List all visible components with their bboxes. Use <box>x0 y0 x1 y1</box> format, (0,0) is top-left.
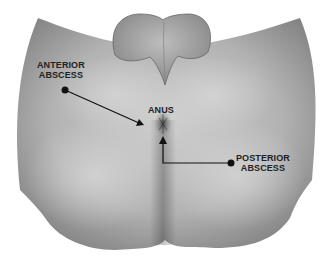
posterior-abscess-line2: ABSCESS <box>236 163 290 173</box>
anus-label: ANUS <box>148 105 174 115</box>
anterior-abscess-line1: ANTERIOR <box>37 60 85 70</box>
perineum-illustration <box>0 0 327 262</box>
anterior-abscess-line2: ABSCESS <box>37 70 85 80</box>
anterior-abscess-label: ANTERIOR ABSCESS <box>37 60 85 80</box>
posterior-abscess-label: POSTERIOR ABSCESS <box>236 153 290 173</box>
diagram: ANTERIOR ABSCESS ANUS POSTERIOR ABSCESS <box>0 0 327 262</box>
posterior-abscess-line1: POSTERIOR <box>236 153 290 163</box>
